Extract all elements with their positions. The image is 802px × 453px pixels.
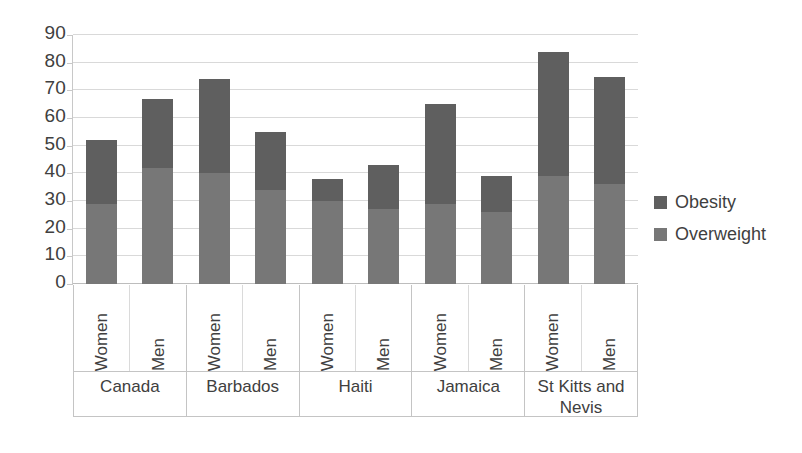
stacked-bar[interactable] bbox=[481, 176, 512, 284]
x-axis-subcategory-cell: Men bbox=[582, 285, 637, 371]
bar-slot bbox=[356, 35, 413, 284]
x-axis-subcategory-label: Women bbox=[93, 311, 110, 371]
plot-area bbox=[73, 35, 638, 284]
x-axis-subcategory-row: WomenMenWomenMenWomenMenWomenMenWomenMen bbox=[74, 285, 637, 371]
x-axis-table: WomenMenWomenMenWomenMenWomenMenWomenMen… bbox=[73, 285, 638, 417]
stacked-bar[interactable] bbox=[538, 52, 569, 284]
y-axis-tick-mark bbox=[67, 118, 73, 119]
bar-segment-overweight[interactable] bbox=[425, 204, 456, 284]
x-axis-group-label: Barbados bbox=[206, 376, 279, 397]
x-axis-group-label: Jamaica bbox=[437, 376, 500, 397]
y-axis-tick-mark bbox=[67, 173, 73, 174]
stacked-bar[interactable] bbox=[425, 104, 456, 284]
x-axis-group-cell: Haiti bbox=[300, 372, 413, 416]
y-axis-tick-mark bbox=[67, 146, 73, 147]
y-axis-tick-label: 60 bbox=[44, 106, 66, 125]
y-axis-tick-label: 70 bbox=[44, 78, 66, 97]
y-axis-tick-label: 20 bbox=[44, 217, 66, 236]
x-axis-subcategory-cell: Women bbox=[187, 285, 243, 371]
bar-segment-obesity[interactable] bbox=[312, 179, 343, 201]
bar-segment-overweight[interactable] bbox=[86, 204, 117, 284]
bar-segment-obesity[interactable] bbox=[142, 99, 173, 168]
x-axis-subcategory-label: Women bbox=[432, 311, 449, 371]
legend-swatch-icon bbox=[654, 228, 667, 241]
x-axis-group-cell: Jamaica bbox=[412, 372, 525, 416]
x-axis-subcategory-cell: Women bbox=[300, 285, 356, 371]
stacked-bar[interactable] bbox=[368, 165, 399, 284]
y-axis-tick-label: 90 bbox=[44, 23, 66, 42]
bar-segment-obesity[interactable] bbox=[538, 52, 569, 177]
stacked-bar[interactable] bbox=[594, 77, 625, 285]
y-axis-tick-mark bbox=[67, 284, 73, 285]
y-axis-labels: 9080706050403020100 bbox=[26, 23, 66, 295]
x-axis-group-label: St Kitts and Nevis bbox=[525, 376, 637, 418]
chart-legend: ObesityOverweight bbox=[654, 192, 794, 256]
bar-segment-obesity[interactable] bbox=[86, 140, 117, 204]
stacked-bar[interactable] bbox=[142, 99, 173, 284]
bar-segment-overweight[interactable] bbox=[199, 173, 230, 284]
legend-item[interactable]: Obesity bbox=[654, 192, 794, 212]
bar-segment-obesity[interactable] bbox=[425, 104, 456, 204]
bar-segment-overweight[interactable] bbox=[538, 176, 569, 284]
stacked-bar[interactable] bbox=[86, 140, 117, 284]
legend-label: Obesity bbox=[675, 193, 736, 211]
bar-segment-obesity[interactable] bbox=[481, 176, 512, 212]
bar-segment-overweight[interactable] bbox=[594, 184, 625, 284]
bar-segment-overweight[interactable] bbox=[481, 212, 512, 284]
x-axis-subcategory-cell: Women bbox=[412, 285, 468, 371]
y-axis-tick-mark bbox=[67, 63, 73, 64]
x-axis-subcategory-label: Men bbox=[262, 336, 279, 371]
x-axis-group-label: Canada bbox=[100, 376, 160, 397]
bar-slot bbox=[130, 35, 187, 284]
x-axis-group-cell: Canada bbox=[74, 372, 187, 416]
y-axis-tick-label: 40 bbox=[44, 161, 66, 180]
x-axis-subcategory-label: Men bbox=[488, 336, 505, 371]
x-axis-subcategory-cell: Men bbox=[130, 285, 186, 371]
y-axis-tick-mark bbox=[67, 35, 73, 36]
y-axis-tick-mark bbox=[67, 90, 73, 91]
bar-slot bbox=[73, 35, 130, 284]
bar-slot bbox=[299, 35, 356, 284]
x-axis-subcategory-label: Men bbox=[150, 336, 167, 371]
x-axis-group-label: Haiti bbox=[338, 376, 372, 397]
bar-segment-overweight[interactable] bbox=[368, 209, 399, 284]
bar-segment-obesity[interactable] bbox=[199, 79, 230, 173]
y-axis-tick-mark bbox=[67, 201, 73, 202]
y-axis-tick-label: 50 bbox=[44, 134, 66, 153]
bar-slot bbox=[582, 35, 639, 284]
x-axis-subcategory-label: Women bbox=[544, 311, 561, 371]
bar-segment-overweight[interactable] bbox=[142, 168, 173, 284]
x-axis-subcategory-cell: Men bbox=[469, 285, 525, 371]
y-axis-tick-label: 10 bbox=[44, 244, 66, 263]
x-axis-group-cell: St Kitts and Nevis bbox=[525, 372, 637, 416]
legend-item[interactable]: Overweight bbox=[654, 224, 794, 244]
x-axis-group-row: CanadaBarbadosHaitiJamaicaSt Kitts and N… bbox=[74, 371, 637, 416]
bar-slot bbox=[469, 35, 526, 284]
x-axis-subcategory-label: Men bbox=[601, 336, 618, 371]
stacked-bar[interactable] bbox=[312, 179, 343, 284]
y-axis-tick-label: 30 bbox=[44, 189, 66, 208]
bars-layer bbox=[73, 35, 638, 284]
legend-swatch-icon bbox=[654, 196, 667, 209]
x-axis-subcategory-label: Women bbox=[319, 311, 336, 371]
stacked-bar[interactable] bbox=[255, 132, 286, 284]
bar-segment-overweight[interactable] bbox=[255, 190, 286, 284]
bar-slot bbox=[243, 35, 300, 284]
legend-label: Overweight bbox=[675, 225, 766, 243]
y-axis-tick-mark bbox=[67, 229, 73, 230]
x-axis-subcategory-label: Women bbox=[206, 311, 223, 371]
stacked-bar[interactable] bbox=[199, 79, 230, 284]
x-axis-subcategory-cell: Men bbox=[356, 285, 412, 371]
y-axis-tick-label: 80 bbox=[44, 51, 66, 70]
x-axis-group-cell: Barbados bbox=[187, 372, 300, 416]
bar-segment-obesity[interactable] bbox=[255, 132, 286, 190]
chart-container: 9080706050403020100 WomenMenWomenMenWome… bbox=[0, 0, 802, 453]
y-axis-tick-label: 0 bbox=[55, 272, 66, 291]
bar-slot bbox=[186, 35, 243, 284]
y-axis-tick-mark bbox=[67, 256, 73, 257]
bar-segment-obesity[interactable] bbox=[368, 165, 399, 209]
bar-slot bbox=[412, 35, 469, 284]
bar-segment-obesity[interactable] bbox=[594, 77, 625, 185]
bar-segment-overweight[interactable] bbox=[312, 201, 343, 284]
bar-slot bbox=[525, 35, 582, 284]
